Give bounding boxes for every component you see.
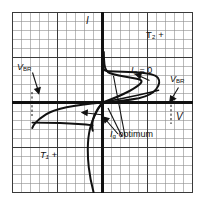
breakover-voltage-right-label: VBR [170, 75, 185, 84]
ig-optimum-leader-a [114, 76, 126, 136]
quadrant-label-t1: T₁ + [40, 150, 57, 160]
gate-current-zero-label: Ig = 0 [131, 66, 152, 75]
curve-reverse-shelf [32, 123, 92, 126]
vi-characteristic-plot [12, 12, 193, 193]
current-axis-label: I [86, 16, 89, 26]
ig-optimum-arrow-b [82, 110, 104, 115]
breakover-voltage-left-label: VBR [17, 63, 32, 72]
curve-forward-shelf [103, 90, 159, 102]
plot-svg [12, 12, 193, 193]
quadrant-label-t1-text: T₁ + [40, 149, 57, 160]
quadrant-label-t2: T₂ + [146, 30, 164, 40]
vbr-left-subscript: BR [23, 65, 32, 72]
vbr-right-subscript: BR [176, 77, 185, 84]
voltage-axis-label: V [176, 112, 183, 122]
gate-current-optimum-label: Ig optimum [110, 130, 153, 139]
curve-forward-ig-zero [102, 56, 159, 103]
ig-zero-value: = 0 [137, 65, 152, 75]
figure-root: I V T₂ + T₁ + VBR VBR Ig = 0 Ig optimum [0, 0, 222, 219]
vbr-right-arrow [170, 88, 179, 102]
ig-optimum-word: optimum [116, 129, 153, 139]
